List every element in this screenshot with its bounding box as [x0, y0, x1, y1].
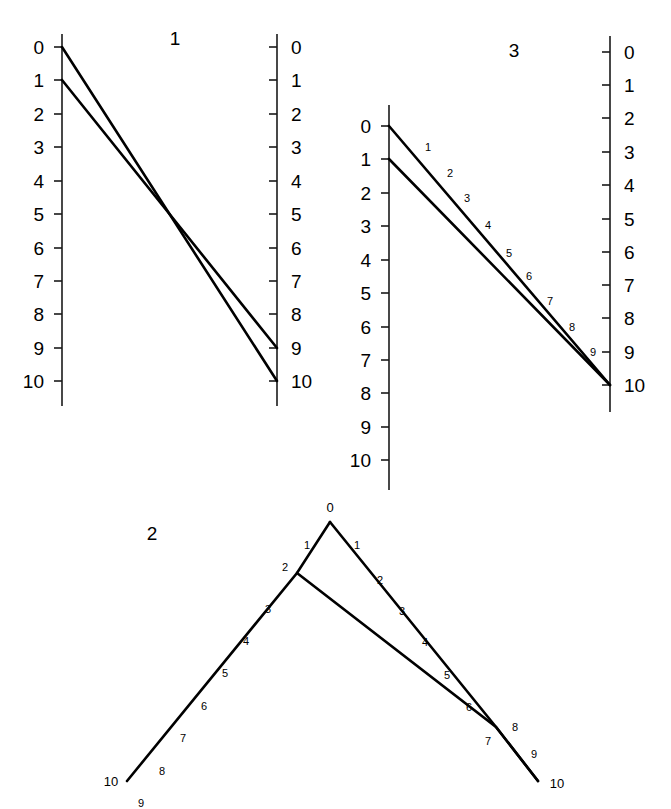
panel1-right-axis-label-7: 7: [291, 271, 302, 292]
panel-1: 1012345678910012345678910: [23, 28, 312, 406]
panel1-right-axis-label-4: 4: [291, 171, 302, 192]
panel1-right-axis-label-5: 5: [291, 204, 302, 225]
panel1-right-axis-label-6: 6: [291, 238, 302, 259]
panel3-right-axis-label-10: 10: [624, 375, 645, 396]
panel-2-line-label-7: 4: [243, 635, 249, 647]
panel3-left-axis: 012345678910: [350, 105, 389, 490]
panel3-right-axis-label-5: 5: [624, 209, 635, 230]
panel3-left-axis-label-7: 7: [360, 350, 371, 371]
panel-2-line-label-3: 2: [282, 561, 288, 573]
panel-2: 201122334455667788991010: [104, 500, 564, 809]
panel-2-line-label-8: 4: [422, 636, 428, 648]
panel-3-line-label-6: 7: [547, 295, 553, 307]
panel-2-line-label-16: 8: [512, 721, 518, 733]
panel-2-line-label-19: 10: [104, 774, 118, 789]
panel1-right-axis-label-1: 1: [291, 70, 302, 91]
panel3-right-axis: 012345678910: [602, 36, 645, 412]
nomogram-figure: 1012345678910012345678910301234567891001…: [0, 0, 671, 809]
panel3-left-axis-label-0: 0: [360, 116, 371, 137]
panel3-right-axis-label-6: 6: [624, 242, 635, 263]
panel2-line-left: [127, 522, 330, 781]
panel-2-line-label-6: 3: [399, 605, 405, 617]
panel-2-line-label-20: 10: [550, 776, 564, 791]
panel1-right-axis-label-0: 0: [291, 37, 302, 58]
panel-2-line-label-10: 5: [444, 669, 450, 681]
panel3-left-axis-label-1: 1: [360, 149, 371, 170]
panel1-right-axis: 012345678910: [269, 34, 312, 406]
panel1-left-axis-label-6: 6: [33, 238, 44, 259]
panel1-left-axis: 012345678910: [23, 34, 62, 406]
panel3-line-a: [389, 126, 610, 385]
panel-2-line-label-4: 2: [377, 574, 383, 586]
panel3-left-axis-label-2: 2: [360, 183, 371, 204]
panel1-left-axis-label-4: 4: [33, 171, 44, 192]
panel3-right-axis-label-1: 1: [624, 75, 635, 96]
panel1-left-axis-label-0: 0: [33, 37, 44, 58]
panel-2-line-label-18: 9: [531, 748, 537, 760]
panel-3-line-label-8: 9: [590, 346, 596, 358]
panel1-right-axis-label-3: 3: [291, 137, 302, 158]
panel3-line-b: [389, 159, 610, 385]
panel-2-line-label-15: 8: [159, 765, 165, 777]
panel1-left-axis-label-5: 5: [33, 204, 44, 225]
panel-2-line-label-12: 6: [466, 701, 472, 713]
panel-3-title: 3: [509, 40, 520, 61]
panel3-right-axis-label-4: 4: [624, 175, 635, 196]
panel3-right-axis-label-3: 3: [624, 142, 635, 163]
panel-3-line-label-1: 2: [447, 167, 453, 179]
panel1-right-axis-label-10: 10: [291, 371, 312, 392]
panel-2-title: 2: [147, 523, 158, 544]
panel3-right-axis-label-7: 7: [624, 275, 635, 296]
panel-1-title: 1: [170, 28, 181, 49]
figure-canvas: 1012345678910012345678910301234567891001…: [0, 0, 671, 809]
panel-2-line-label-9: 5: [222, 667, 228, 679]
panel-2-line-label-2: 1: [354, 539, 360, 551]
panel3-left-axis-label-4: 4: [360, 250, 371, 271]
panel3-left-axis-label-10: 10: [350, 450, 371, 471]
panel3-left-axis-label-8: 8: [360, 383, 371, 404]
panel-2-line-label-5: 3: [265, 603, 271, 615]
panel3-left-axis-label-9: 9: [360, 417, 371, 438]
panel-2-line-label-14: 7: [485, 735, 491, 747]
panel1-left-axis-label-3: 3: [33, 137, 44, 158]
panel1-right-axis-label-9: 9: [291, 338, 302, 359]
panel1-left-axis-label-9: 9: [33, 338, 44, 359]
panel3-left-axis-label-6: 6: [360, 317, 371, 338]
panel-3-line-label-7: 8: [569, 321, 575, 333]
panel1-right-axis-label-2: 2: [291, 104, 302, 125]
panel3-right-axis-label-0: 0: [624, 42, 635, 63]
panel-3-line-label-0: 1: [425, 141, 431, 153]
panel-2-line-label-13: 7: [180, 732, 186, 744]
panel-3-line-label-5: 6: [526, 270, 532, 282]
panel3-right-axis-label-9: 9: [624, 342, 635, 363]
panel-3-line-label-4: 5: [506, 247, 512, 259]
panel1-left-axis-label-10: 10: [23, 371, 44, 392]
panel-3: 3012345678910012345678910123456789: [350, 36, 645, 490]
panel3-right-axis-label-8: 8: [624, 308, 635, 329]
panel1-left-axis-label-7: 7: [33, 271, 44, 292]
panel-3-line-label-3: 4: [485, 219, 491, 231]
panel3-left-axis-label-3: 3: [360, 216, 371, 237]
panel1-line-b: [62, 80, 277, 348]
panel1-left-axis-label-1: 1: [33, 70, 44, 91]
panel-2-line-label-0: 0: [326, 500, 333, 515]
panel1-left-axis-label-8: 8: [33, 304, 44, 325]
panel-2-line-label-17: 9: [138, 797, 144, 809]
panel3-left-axis-label-5: 5: [360, 283, 371, 304]
panel2-line-cross: [297, 573, 538, 781]
panel1-right-axis-label-8: 8: [291, 304, 302, 325]
panel-group: 1012345678910012345678910301234567891001…: [23, 28, 645, 809]
panel3-right-axis-label-2: 2: [624, 108, 635, 129]
panel-3-line-label-2: 3: [464, 192, 470, 204]
panel-2-line-label-11: 6: [201, 700, 207, 712]
panel1-left-axis-label-2: 2: [33, 104, 44, 125]
panel-2-line-label-1: 1: [304, 539, 310, 551]
